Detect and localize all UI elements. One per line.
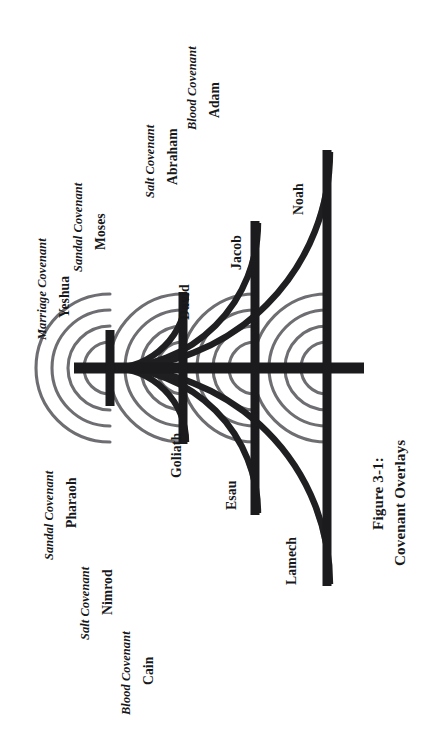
label-yeshua: Yeshua: [58, 276, 72, 318]
label-sandal-covenant-lower: Sandal Covenant: [43, 471, 55, 560]
label-nimrod: Nimrod: [101, 569, 115, 615]
central-spine: [74, 363, 364, 374]
label-salt-covenant-upper: Salt Covenant: [144, 125, 156, 198]
node-crossbar-3: [323, 150, 332, 586]
label-blood-covenant-upper: Blood Covenant: [186, 46, 198, 130]
label-sandal-covenant-upper: Sandal Covenant: [72, 183, 84, 272]
label-adam: Adam: [208, 82, 222, 118]
label-moses: Moses: [94, 213, 108, 250]
label-marriage-covenant: Marriage Covenant: [36, 238, 48, 340]
figure-caption-line1: Figure 3-1:: [370, 457, 385, 530]
label-cain: Cain: [142, 657, 156, 685]
label-david: David: [178, 284, 192, 320]
label-noah: Noah: [292, 183, 306, 215]
label-lamech: Lamech: [285, 537, 299, 585]
node-crossbar-2: [251, 221, 260, 515]
label-goliath: Goliath: [170, 433, 184, 478]
node-crossbar-0: [106, 330, 115, 406]
label-blood-covenant-lower: Blood Covenant: [120, 631, 132, 715]
label-esau: Esau: [225, 480, 239, 510]
label-abraham: Abraham: [166, 128, 180, 185]
figure-covenant-overlays: Marriage Covenant Yeshua Sandal Covenant…: [0, 0, 442, 733]
figure-caption-line2: Covenant Overlays: [392, 440, 407, 566]
label-jacob: Jacob: [230, 235, 244, 270]
label-salt-covenant-lower: Salt Covenant: [79, 567, 91, 640]
label-pharaoh: Pharaoh: [65, 477, 79, 528]
